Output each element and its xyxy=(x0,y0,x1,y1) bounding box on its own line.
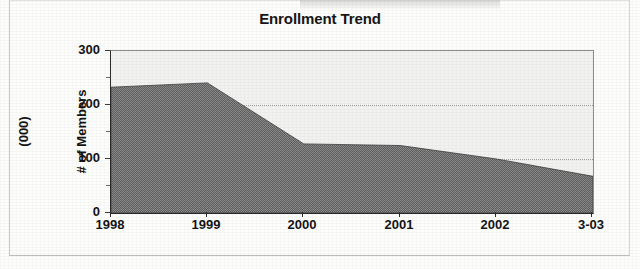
y-tick-label-300: 300 xyxy=(58,43,100,56)
x-tick-label-2001: 2001 xyxy=(369,218,429,231)
y-tick-label-0: 0 xyxy=(58,205,100,218)
scanned-page: Enrollment Trend # of Members (000) 300 … xyxy=(0,0,640,269)
area-series xyxy=(111,51,593,213)
y-axis-title-line-2: (000) xyxy=(15,116,30,146)
chart-title: Enrollment Trend xyxy=(0,10,640,27)
x-tick-label-1999: 1999 xyxy=(176,218,236,231)
x-tick-label-2002: 2002 xyxy=(465,218,525,231)
x-tick-label-2000: 2000 xyxy=(272,218,332,231)
y-tick-label-200: 200 xyxy=(58,97,100,110)
plot-area xyxy=(110,50,594,214)
plot-inner xyxy=(111,51,593,213)
x-tick-label-3-03: 3-03 xyxy=(561,218,621,231)
y-tick-label-100: 100 xyxy=(58,151,100,164)
y-axis-title: # of Members (000) xyxy=(22,50,56,212)
x-tick-label-1998: 1998 xyxy=(80,218,140,231)
